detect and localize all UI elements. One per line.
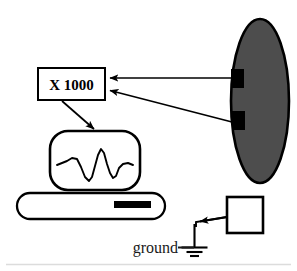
oscilloscope-screen [50, 131, 140, 190]
lead-amplifier-to-monitor [62, 101, 94, 129]
ground-label: ground [133, 239, 178, 257]
electrode-upper-icon [231, 69, 244, 88]
base-slot-bar [114, 201, 151, 208]
amplifier-gain-label: X 1000 [49, 77, 94, 93]
lead-lower-electrode-to-amplifier [110, 91, 232, 123]
lead-ground-arrow [200, 217, 227, 222]
diagram-canvas: X 1000 ground [0, 0, 297, 271]
ground-electrode-box [227, 197, 263, 233]
subject-ellipse [231, 19, 289, 183]
schematic-svg: X 1000 ground [0, 0, 297, 271]
electrode-lower-icon [232, 111, 245, 130]
